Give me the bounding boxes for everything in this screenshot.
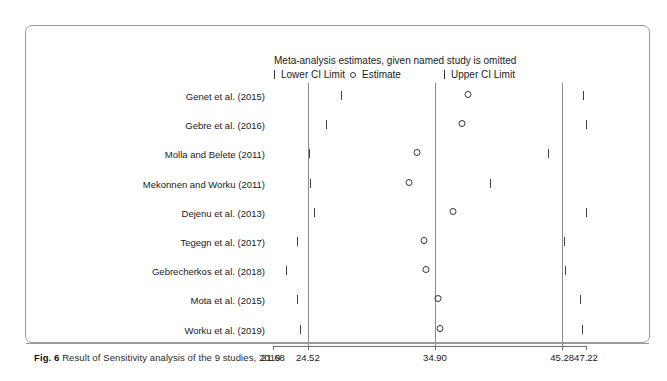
upper-ci-marker: [548, 149, 549, 158]
lower-ci-marker: [297, 295, 298, 304]
legend-entry-lower-ci: Lower CI Limit: [274, 69, 345, 80]
chart-row: Tegegn et al. (2017): [273, 229, 588, 259]
circle-marker-icon: [350, 72, 356, 78]
lower-ci-marker: [310, 179, 311, 188]
chart-row: Gebrecherkos et al. (2018): [273, 258, 588, 288]
study-label: Gebrecherkos et al. (2018): [152, 266, 265, 277]
x-axis-tick: [562, 346, 563, 350]
lower-ci-marker: [326, 120, 327, 129]
chart-plot-area: 21.6824.5234.9045.2847.22 Genet et al. (…: [273, 83, 588, 349]
lower-ci-marker: [341, 91, 342, 100]
x-axis-tick-label: 47.22: [574, 352, 598, 363]
figure-page: Meta-analysis estimates, given named stu…: [0, 0, 667, 381]
upper-ci-marker: [490, 179, 491, 188]
chart-row: Gebre et al. (2016): [273, 112, 588, 142]
figure-number: Fig. 6: [34, 352, 59, 363]
study-label: Gebre et al. (2016): [185, 120, 265, 131]
estimate-marker: [406, 179, 413, 186]
lower-ci-marker: [297, 237, 298, 246]
chart-title: Meta-analysis estimates, given named stu…: [274, 55, 516, 66]
legend-label-estimate: Estimate: [362, 69, 401, 80]
figure-caption-text: Result of Sensitivity analysis of the 9 …: [62, 352, 280, 363]
figure-card: Meta-analysis estimates, given named stu…: [25, 25, 650, 343]
upper-ci-marker: [586, 120, 587, 129]
chart-row: Dejenu et al. (2013): [273, 200, 588, 230]
figure-caption: Fig. 6 Result of Sensitivity analysis of…: [34, 352, 281, 363]
tick-marker-icon: [444, 70, 445, 79]
estimate-marker: [423, 266, 430, 273]
x-axis-tick-label: 34.90: [423, 352, 447, 363]
upper-ci-marker: [583, 91, 584, 100]
legend-entry-upper-ci: Upper CI Limit: [444, 69, 515, 80]
legend-entry-estimate: Estimate: [350, 69, 401, 80]
estimate-marker: [434, 295, 441, 302]
lower-ci-marker: [300, 325, 301, 334]
estimate-marker: [436, 325, 443, 332]
chart-row: Molla and Belete (2011): [273, 141, 588, 171]
caption-divider: [26, 343, 649, 344]
study-label: Molla and Belete (2011): [165, 149, 265, 160]
study-label: Dejenu et al. (2013): [182, 208, 265, 219]
x-axis-tick: [273, 346, 274, 350]
legend-label-lower-ci: Lower CI Limit: [281, 69, 345, 80]
upper-ci-marker: [565, 266, 566, 275]
upper-ci-marker: [582, 325, 583, 334]
chart-row: Mota et al. (2015): [273, 287, 588, 317]
study-label: Worku et al. (2019): [184, 325, 265, 336]
chart-row: Genet et al. (2015): [273, 83, 588, 113]
study-label: Mota et al. (2015): [191, 295, 265, 306]
estimate-marker: [413, 149, 420, 156]
x-axis-tick: [586, 346, 587, 350]
x-axis-tick: [308, 346, 309, 350]
chart-legend: Lower CI Limit Estimate Upper CI Limit: [274, 69, 574, 83]
estimate-marker: [450, 208, 457, 215]
chart-row: Mekonnen and Worku (2011): [273, 171, 588, 201]
lower-ci-marker: [309, 149, 310, 158]
lower-ci-marker: [314, 208, 315, 217]
x-axis-tick-label: 24.52: [296, 352, 320, 363]
x-axis-tick-label: 45.28: [550, 352, 574, 363]
legend-label-upper-ci: Upper CI Limit: [451, 69, 515, 80]
estimate-marker: [459, 120, 466, 127]
upper-ci-marker: [586, 208, 587, 217]
tick-marker-icon: [274, 70, 275, 79]
study-label: Genet et al. (2015): [186, 91, 265, 102]
study-label: Tegegn et al. (2017): [180, 237, 265, 248]
upper-ci-marker: [580, 295, 581, 304]
x-axis-tick: [435, 346, 436, 350]
study-label: Mekonnen and Worku (2011): [143, 179, 265, 190]
estimate-marker: [421, 237, 428, 244]
lower-ci-marker: [286, 266, 287, 275]
estimate-marker: [465, 91, 472, 98]
upper-ci-marker: [564, 237, 565, 246]
